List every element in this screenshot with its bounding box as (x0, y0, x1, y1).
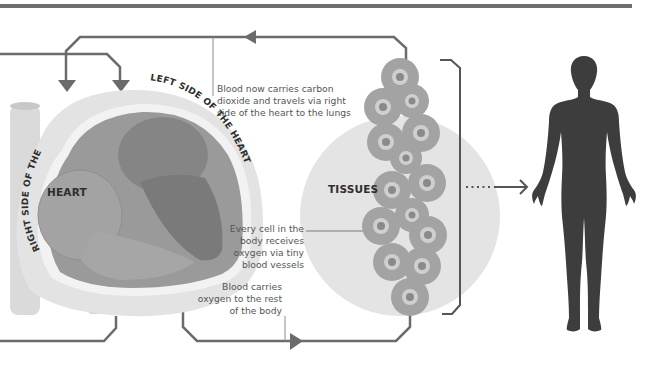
oxygen-annotation: Blood carries oxygen to the rest of the … (190, 281, 282, 317)
co2-annotation-line-3: side of the heart to the lungs (217, 107, 351, 119)
cell (391, 278, 429, 316)
cell (362, 207, 400, 245)
return-loop-arrow (0, 37, 406, 82)
heart-label: HEART (47, 186, 87, 198)
tissues-label: TISSUES (328, 183, 378, 195)
every-cell-line-1: Every cell in the (220, 223, 304, 235)
cell (408, 164, 446, 202)
arrow-down-head-1 (58, 80, 76, 92)
every-cell-line-2: body receives (220, 235, 304, 247)
arrow-right-head (290, 333, 303, 350)
vessel-top (10, 102, 40, 110)
oxygen-line-1: Blood carries (190, 281, 282, 293)
circulation-diagram: LEFT SIDE OF THE HEART RIGHT SIDE OF THE… (0, 0, 671, 368)
cell (364, 88, 402, 126)
every-cell-line-4: blood vessels (220, 259, 304, 271)
top-rule (0, 4, 632, 8)
human-silhouette (532, 56, 636, 331)
oxygen-line-2: oxygen to the rest (190, 293, 282, 305)
every-cell-annotation: Every cell in the body receives oxygen v… (220, 223, 304, 271)
co2-annotation-line-1: Blood now carries carbon (217, 83, 351, 95)
co2-annotation: Blood now carries carbon dioxide and tra… (217, 83, 351, 119)
oxygen-line-3: of the body (190, 305, 282, 317)
every-cell-line-3: oxygen via tiny (220, 247, 304, 259)
co2-annotation-line-2: dioxide and travels via right (217, 95, 351, 107)
arrow-left-head (244, 30, 256, 44)
